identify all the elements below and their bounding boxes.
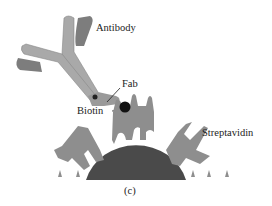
label-antibody: Antibody [96, 22, 136, 33]
panel-label: (c) [124, 185, 136, 196]
label-biotin: Biotin [77, 105, 103, 116]
label-fab: Fab [122, 78, 138, 89]
biotin [120, 102, 131, 113]
streptavidin-top [112, 94, 154, 144]
label-streptavidin: Streptavidin [202, 127, 253, 138]
diagram-canvas [0, 0, 272, 206]
